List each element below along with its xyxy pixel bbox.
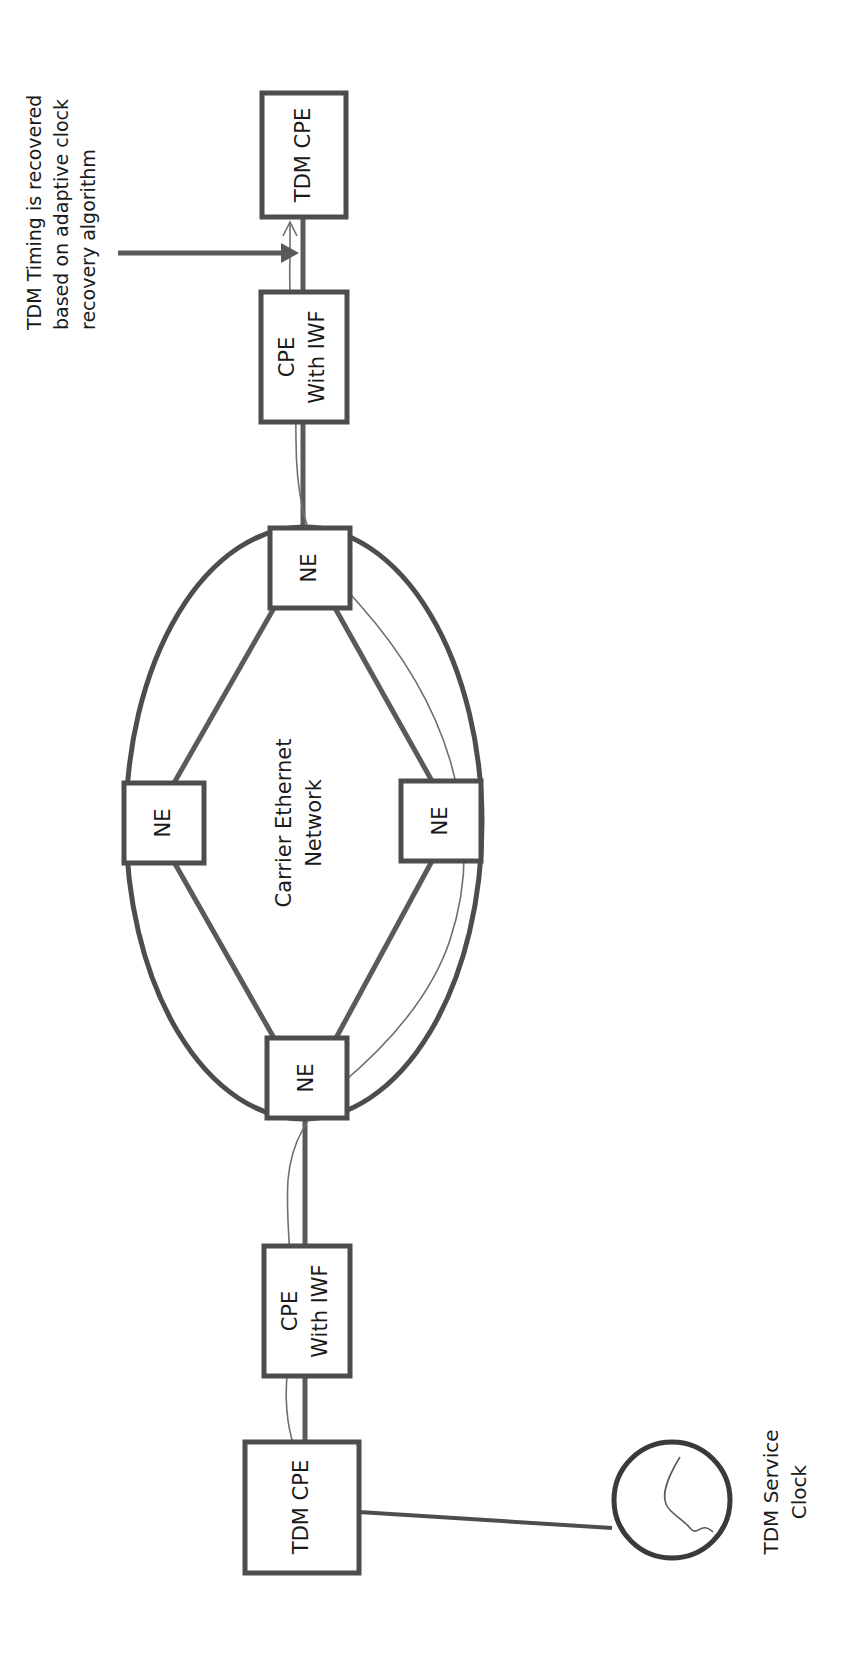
annotation-line-3: recovery algorithm <box>77 149 99 330</box>
node-ne-bottom-label: NE <box>294 1064 318 1093</box>
annotation-line-2: based on adaptive clock <box>50 99 72 330</box>
node-cpe-iwf-right-label-line-1: CPE <box>275 337 299 378</box>
node-tdm-cpe-right-label: TDM CPE <box>291 108 315 203</box>
cloud-label-line-1: Carrier Ethernet <box>272 739 296 908</box>
link-layer <box>174 217 612 1528</box>
node-ne-top-label: NE <box>297 554 321 583</box>
node-ne-bottom[interactable]: NE <box>267 1038 347 1118</box>
node-ne-left[interactable]: NE <box>124 783 204 863</box>
cloud-label-line-2: Network <box>302 778 326 867</box>
link-ne-left-to-ne-bottom <box>174 862 274 1038</box>
service-clock-label-line-1: TDM Service <box>759 1429 783 1555</box>
node-tdm-service-clock[interactable]: TDM Service Clock <box>614 1429 811 1558</box>
node-ne-right[interactable]: NE <box>401 781 481 861</box>
node-ne-left-label: NE <box>151 809 175 838</box>
node-ne-top[interactable]: NE <box>270 528 350 608</box>
node-ne-right-label: NE <box>428 807 452 836</box>
annotation-adaptive-clock-recovery: TDM Timing is recovered based on adaptiv… <box>23 95 300 331</box>
node-tdm-cpe-left[interactable]: TDM CPE <box>245 1442 359 1573</box>
node-cpe-iwf-left[interactable]: CPE With IWF <box>264 1246 350 1376</box>
node-tdm-cpe-right[interactable]: TDM CPE <box>262 93 346 217</box>
node-cpe-iwf-left-shape[interactable] <box>264 1246 350 1376</box>
node-cpe-iwf-left-label-line-1: CPE <box>278 1291 302 1332</box>
network-diagram: Carrier Ethernet Network TDM CPE CPE Wit… <box>0 0 856 1659</box>
node-cpe-iwf-left-label-line-2: With IWF <box>308 1264 332 1357</box>
node-cpe-iwf-right-label-line-2: With IWF <box>305 310 329 403</box>
link-tdmcpe-left-to-service-clock <box>359 1512 612 1528</box>
annotation-line-1: TDM Timing is recovered <box>23 95 45 331</box>
node-tdm-cpe-left-label: TDM CPE <box>289 1460 313 1555</box>
service-clock-circle[interactable] <box>614 1442 730 1558</box>
link-ne-top-to-ne-left <box>174 608 274 783</box>
service-clock-label-line-2: Clock <box>787 1464 811 1519</box>
link-ne-right-to-ne-bottom <box>336 861 432 1038</box>
diagram-canvas: Carrier Ethernet Network TDM CPE CPE Wit… <box>0 0 856 1659</box>
node-cpe-iwf-right[interactable]: CPE With IWF <box>261 292 347 422</box>
node-cpe-iwf-right-shape[interactable] <box>261 292 347 422</box>
